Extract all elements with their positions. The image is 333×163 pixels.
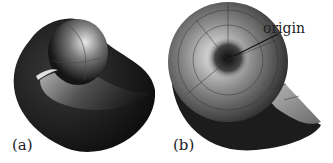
figure-panel-b: origin (b) bbox=[166, 0, 333, 163]
figure-panel-a: (a) bbox=[0, 0, 166, 163]
panel-label-b: (b) bbox=[173, 136, 194, 154]
panel-label-a: (a) bbox=[12, 136, 33, 154]
origin-annotation: origin bbox=[263, 20, 305, 36]
